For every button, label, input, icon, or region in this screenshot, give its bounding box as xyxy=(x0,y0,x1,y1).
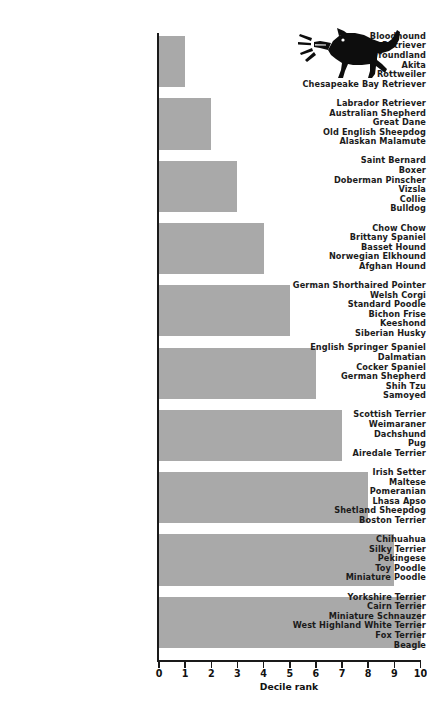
breed-label: Dachshund xyxy=(274,430,426,440)
bar-group xyxy=(159,161,237,212)
breed-label: Samoyed xyxy=(274,391,426,401)
x-axis-tick-label: 7 xyxy=(339,668,346,679)
bar-group xyxy=(159,36,185,87)
breed-label-group: German Shorthaired PointerWelsh CorgiSta… xyxy=(274,281,426,339)
breed-label-group: ChihuahuaSilky TerrierPekingeseToy Poodl… xyxy=(274,535,426,583)
breed-label: Afghan Hound xyxy=(274,262,426,272)
x-axis-title: Decile rank xyxy=(157,681,421,692)
bar xyxy=(159,161,237,212)
x-axis-tick-label: 0 xyxy=(156,668,163,679)
breed-label: Bulldog xyxy=(274,204,426,214)
bar-group xyxy=(159,285,290,336)
bar xyxy=(159,223,264,274)
x-axis-tick-label: 6 xyxy=(313,668,320,679)
breed-label: Miniature Poodle xyxy=(274,573,426,583)
breed-label: Airedale Terrier xyxy=(274,449,426,459)
breed-label-group: Irish SetterMaltesePomeranianLhasa ApsoS… xyxy=(274,468,426,526)
bar xyxy=(159,36,185,87)
x-axis-tick-label: 1 xyxy=(182,668,189,679)
breed-label: Beagle xyxy=(274,641,426,651)
breed-label-group: Scottish TerrierWeimaranerDachshundPugAi… xyxy=(274,410,426,458)
x-axis-tick-label: 2 xyxy=(208,668,215,679)
x-axis-tick-label: 9 xyxy=(391,668,398,679)
breed-label: Boston Terrier xyxy=(274,516,426,526)
bar-group xyxy=(159,98,211,149)
breed-label: Siberian Husky xyxy=(274,329,426,339)
breed-label-group: Yorkshire TerrierCairn TerrierMiniature … xyxy=(274,593,426,651)
bar xyxy=(159,285,290,336)
breed-label-group: Saint BernardBoxerDoberman PinscherVizsl… xyxy=(274,156,426,214)
x-axis-tick-label: 10 xyxy=(414,668,427,679)
x-axis-tick-label: 8 xyxy=(365,668,372,679)
breed-label-group: Labrador RetrieverAustralian ShepherdGre… xyxy=(274,99,426,147)
breed-label: Alaskan Malamute xyxy=(274,137,426,147)
x-axis-tick-label: 4 xyxy=(260,668,267,679)
barking-dog-icon xyxy=(292,28,414,90)
bar-group xyxy=(159,223,264,274)
breed-label-group: English Springer SpanielDalmatianCocker … xyxy=(274,343,426,401)
breed-label-group: Chow ChowBrittany SpanielBasset HoundNor… xyxy=(274,224,426,272)
x-axis-tick-label: 5 xyxy=(286,668,293,679)
x-axis-tick-label: 3 xyxy=(234,668,241,679)
bar xyxy=(159,98,211,149)
